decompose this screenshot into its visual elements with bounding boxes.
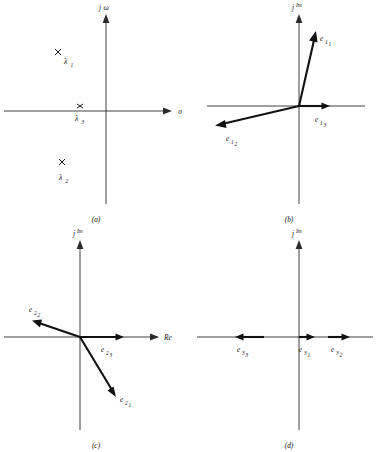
vector-label-e-1-3: e	[315, 116, 319, 124]
pole-marker-lambda-2	[59, 159, 65, 165]
pole-marker-lambda-1	[55, 49, 61, 55]
panel-a-horizontal-axis-arrowhead	[163, 108, 172, 115]
pole-marker-lambda-3	[77, 104, 83, 108]
vector-e-2-3	[80, 334, 124, 341]
eigen-figure: σ j ω λ 1 λ 3 λ 2	[0, 0, 386, 452]
vector-label-e-1-2: e	[226, 135, 230, 143]
panel-a-omega-axis-label: ω	[104, 3, 109, 12]
vector-label-e-3-2-sub2: 2	[340, 352, 343, 358]
vector-e-3-2	[328, 334, 350, 341]
vector-label-e-2-2: e	[29, 306, 33, 314]
vector-e-1-1	[299, 31, 318, 106]
vector-label-e-3-1-sub2: 1	[308, 352, 311, 358]
vector-label-e-1-1: e	[320, 35, 324, 43]
panel-c-im-axis-label: Im	[76, 228, 83, 234]
vector-e-1-2	[215, 106, 299, 128]
vector-label-e-1-1-sub2: 1	[329, 41, 332, 47]
vector-label-e-3-1: e	[299, 346, 303, 354]
panel-c-j-axis-label: j	[72, 229, 75, 238]
vector-e-2-2	[32, 320, 80, 338]
panel-a: σ j ω λ 1 λ 3 λ 2	[0, 0, 193, 226]
vector-e-3-3	[235, 334, 264, 341]
panel-c-caption: (c)	[92, 441, 101, 450]
vector-e-3-1	[299, 334, 315, 341]
panel-a-j-axis-label: j	[98, 3, 101, 12]
pole-label-lambda-1: λ	[63, 57, 68, 66]
panel-b-vertical-axis-arrowhead	[296, 14, 303, 23]
vector-label-e-3-2: e	[331, 346, 335, 354]
vector-label-e-3-3: e	[237, 346, 241, 354]
panel-c-vertical-axis-arrowhead	[77, 240, 84, 249]
vector-label-e-2-3: e	[101, 346, 105, 354]
panel-a-sigma-axis-label: σ	[178, 107, 182, 116]
pole-label-lambda-3: λ	[74, 114, 79, 123]
vector-label-e-1-2-sub2: 2	[235, 141, 238, 147]
panel-a-caption: (a)	[92, 215, 101, 224]
vector-label-e-3-3-sub1: 3	[241, 350, 245, 356]
vector-label-e-2-2-sub2: 2	[38, 312, 41, 318]
panel-d: j Im e 3 3 e 3 1 e 3	[193, 226, 386, 452]
vector-e-2-1	[80, 337, 116, 397]
panel-b-caption: (b)	[285, 215, 294, 224]
panel-d-im-axis-label: Im	[295, 228, 302, 234]
pole-label-lambda-2: λ	[58, 173, 63, 182]
vector-label-e-1-3-sub2: 3	[323, 122, 327, 128]
panel-d-j-axis-label: j	[291, 229, 294, 238]
vector-label-e-3-1-sub1: 3	[303, 350, 307, 356]
vector-e-1-3	[299, 103, 330, 110]
panel-c: Re j Im e 2 2 e 2 3	[0, 226, 193, 452]
pole-label-lambda-3-subscript: 3	[81, 119, 85, 125]
panel-d-vertical-axis-arrowhead	[296, 240, 303, 249]
vector-label-e-2-1: e	[120, 396, 124, 404]
vector-label-e-3-3-sub2: 3	[245, 352, 249, 358]
panel-a-vertical-axis-arrowhead	[103, 14, 110, 23]
pole-label-lambda-1-subscript: 1	[71, 62, 74, 68]
vector-label-e-3-2-sub1: 3	[335, 350, 339, 356]
panel-b-j-axis-label: j	[291, 3, 294, 12]
vector-label-e-2-3-sub2: 3	[109, 352, 113, 358]
panel-d-caption: (d)	[285, 441, 294, 450]
panel-c-horizontal-axis-arrowhead	[150, 334, 159, 341]
panel-b: j Im e 1 1 e 1 2 e 1	[193, 0, 386, 226]
panel-c-re-axis-label: Re	[163, 333, 173, 342]
panel-b-im-axis-label: Im	[295, 2, 302, 8]
vector-label-e-2-1-sub2: 1	[129, 402, 132, 408]
pole-label-lambda-2-subscript: 2	[66, 178, 69, 184]
